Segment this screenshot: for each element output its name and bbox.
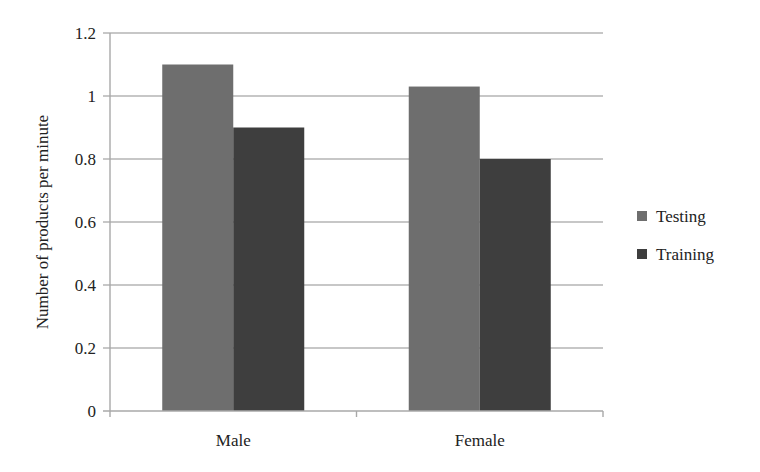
bar-testing-male: [162, 65, 233, 412]
y-axis-title: Number of products per minute: [33, 115, 52, 329]
y-tick-labels: 00.20.40.60.811.2: [75, 24, 97, 421]
bar-training-male: [233, 128, 304, 412]
y-tick-label: 0.6: [75, 213, 96, 232]
legend-item-testing: Testing: [637, 207, 706, 226]
x-category-label: Female: [455, 431, 505, 450]
y-tick-label: 0.2: [75, 339, 96, 358]
y-tick-label: 0.4: [75, 276, 97, 295]
y-tick-label: 1.2: [75, 24, 96, 43]
bar-testing-female: [409, 87, 480, 411]
legend-label: Training: [656, 245, 714, 264]
y-tick-label: 1: [88, 87, 97, 106]
legend-swatch-icon: [637, 211, 647, 221]
bar-chart: 00.20.40.60.811.2 MaleFemale Number of p…: [0, 0, 760, 472]
bar-training-female: [480, 159, 551, 411]
x-category-label: Male: [216, 431, 251, 450]
legend-swatch-icon: [637, 249, 647, 259]
legend-label: Testing: [656, 207, 706, 226]
x-category-labels: MaleFemale: [216, 431, 505, 450]
bars: [162, 65, 551, 412]
legend-item-training: Training: [637, 245, 714, 264]
y-tick-label: 0.8: [75, 150, 96, 169]
y-tick-label: 0: [88, 402, 97, 421]
legend: TestingTraining: [637, 207, 714, 264]
